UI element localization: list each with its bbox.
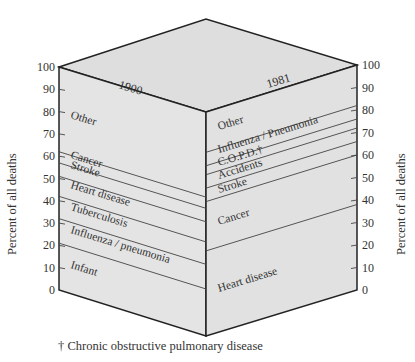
tick-label-right: 10: [362, 261, 374, 275]
right-face-1981: [206, 65, 357, 336]
tick-label-right: 100: [362, 58, 380, 72]
tick-label-right: 90: [362, 81, 374, 95]
tick-label-left: 40: [43, 194, 55, 208]
tick-label-right: 60: [362, 148, 374, 162]
tick-label-left: 80: [43, 105, 55, 119]
tick-label-left: 60: [43, 149, 55, 163]
tick-label-left: 70: [43, 127, 55, 141]
tick-label-right: 40: [362, 193, 374, 207]
tick-label-left: 100: [37, 60, 55, 74]
tick-label-left: 90: [43, 82, 55, 96]
tick-label-left: 10: [43, 261, 55, 275]
tick-label-left: 0: [49, 283, 55, 297]
tick-label-right: 70: [362, 126, 374, 140]
tick-label-left: 50: [43, 172, 55, 186]
tick-label-left: 20: [43, 238, 55, 252]
footnote-copd: † Chronic obstructive pulmonary disease: [58, 339, 263, 354]
tick-label-left: 30: [43, 216, 55, 230]
tick-label-right: 0: [362, 283, 368, 297]
percent-deaths-block-chart: 0102030405060708090100 01020304050607080…: [0, 0, 415, 362]
tick-label-right: 30: [362, 216, 374, 230]
left-axis-title: Percent of all deaths: [5, 153, 19, 255]
tick-label-right: 80: [362, 103, 374, 117]
right-axis-title: Percent of all deaths: [394, 153, 408, 255]
tick-label-right: 20: [362, 238, 374, 252]
tick-label-right: 50: [362, 171, 374, 185]
